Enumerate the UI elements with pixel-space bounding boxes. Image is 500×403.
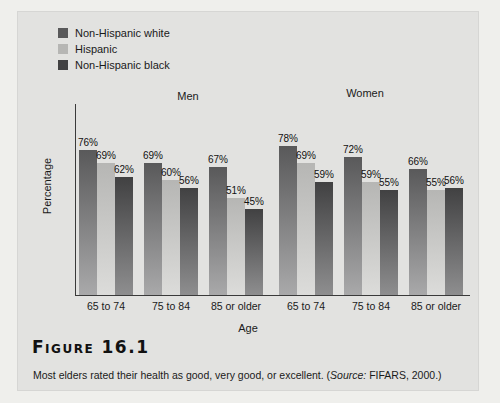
group-title-women: Women	[305, 87, 425, 99]
caption-text: Most elders rated their health as good, …	[33, 369, 330, 381]
bar-group: 69%60%56%	[144, 104, 198, 295]
y-axis-label: Percentage	[41, 141, 53, 231]
x-axis-line	[75, 295, 470, 296]
bar: 66%	[409, 169, 427, 295]
figure-caption: Most elders rated their health as good, …	[33, 368, 473, 382]
bar: 59%	[315, 182, 333, 295]
bar-value-label: 69%	[143, 150, 163, 163]
bar: 56%	[445, 188, 463, 295]
bar: 78%	[279, 146, 297, 295]
bar: 69%	[297, 163, 315, 295]
caption-source-value: FIFARS, 2000.)	[366, 369, 441, 381]
legend-item-hispanic: Hispanic	[58, 42, 170, 56]
bar-group: 72%59%55%	[344, 104, 398, 295]
category-label: 85 or older	[391, 300, 481, 312]
bar-value-label: 69%	[96, 150, 116, 163]
x-axis-label: Age	[18, 322, 478, 334]
legend-swatch-icon	[58, 44, 68, 54]
bar-group: 66%55%56%	[409, 104, 463, 295]
bar-value-label: 78%	[278, 133, 298, 146]
bar-value-label: 69%	[296, 150, 316, 163]
plot-area: 76%69%62%69%60%56%67%51%45%78%69%59%72%5…	[76, 104, 470, 295]
bar: 76%	[79, 150, 97, 295]
bar-value-label: 62%	[114, 164, 134, 177]
bar: 56%	[180, 188, 198, 295]
bar-value-label: 59%	[314, 169, 334, 182]
bar: 45%	[245, 209, 263, 295]
bar-group: 78%69%59%	[279, 104, 333, 295]
legend-label: Non-Hispanic white	[75, 28, 170, 39]
figure-panel: Non-Hispanic white Hispanic Non-Hispanic…	[18, 12, 478, 390]
figure-number: Figure 16.1	[32, 337, 149, 357]
legend-label: Hispanic	[75, 44, 117, 55]
bar-value-label: 66%	[408, 156, 428, 169]
bar: 55%	[380, 190, 398, 295]
group-title-men: Men	[128, 90, 248, 102]
bar: 69%	[97, 163, 115, 295]
legend-swatch-icon	[58, 28, 68, 38]
legend-swatch-icon	[58, 60, 68, 70]
bar-value-label: 45%	[244, 196, 264, 209]
bar-value-label: 56%	[179, 175, 199, 188]
bar: 51%	[227, 198, 245, 295]
chart-legend: Non-Hispanic white Hispanic Non-Hispanic…	[58, 26, 170, 74]
caption-source-label: Source:	[330, 369, 366, 381]
bar-value-label: 55%	[379, 177, 399, 190]
bar-value-label: 67%	[208, 154, 228, 167]
bar: 62%	[115, 177, 133, 295]
bar: 60%	[162, 180, 180, 295]
bar-value-label: 72%	[343, 144, 363, 157]
bar-value-label: 56%	[444, 175, 464, 188]
bar-group: 67%51%45%	[209, 104, 263, 295]
bar: 59%	[362, 182, 380, 295]
bar-group: 76%69%62%	[79, 104, 133, 295]
bar: 55%	[427, 190, 445, 295]
bar-value-label: 76%	[78, 137, 98, 150]
bar: 67%	[209, 167, 227, 295]
bar: 72%	[344, 157, 362, 295]
legend-item-non-hispanic-white: Non-Hispanic white	[58, 26, 170, 40]
bar: 69%	[144, 163, 162, 295]
legend-label: Non-Hispanic black	[75, 60, 170, 71]
legend-item-non-hispanic-black: Non-Hispanic black	[58, 58, 170, 72]
